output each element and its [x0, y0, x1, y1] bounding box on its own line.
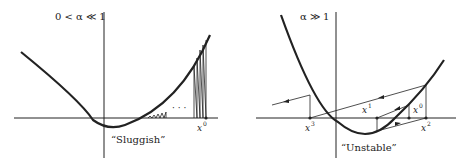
x3-label: x — [305, 123, 310, 133]
x0-sup: 0 — [203, 120, 207, 127]
x0-label: x — [413, 105, 418, 115]
step-line-1 — [377, 118, 426, 131]
x0-sup: 0 — [419, 102, 423, 109]
step-line-3 — [272, 95, 310, 105]
ellipsis: · · · — [172, 103, 186, 113]
arrow-icon — [394, 106, 400, 110]
right-panel: α ≫ 1 “Unstable” x 0 x 1 x 2 x 3 — [256, 11, 456, 158]
x1-sup: 1 — [368, 102, 372, 109]
left-zigzag-large — [194, 40, 206, 118]
right-parabola — [281, 15, 444, 134]
x0-point — [407, 116, 410, 119]
left-parabola — [21, 35, 210, 127]
right-caption: “Unstable” — [341, 142, 397, 153]
step-line-0 — [377, 105, 409, 118]
x3-sup: 3 — [311, 120, 315, 127]
x2-sup: 2 — [427, 120, 431, 127]
left-caption: “Sluggish” — [111, 134, 165, 145]
right-title: α ≫ 1 — [300, 11, 329, 22]
x1-label: x — [362, 105, 367, 115]
x2-label: x — [421, 123, 426, 133]
x1-point — [375, 116, 378, 119]
left-title: 0 < α ≪ 1 — [55, 11, 106, 22]
arrow-icon — [283, 99, 289, 103]
iteration-diagram: · · · 0 < α ≪ 1 “Sluggish” x 0 α ≫ 1 “Un… — [0, 0, 470, 166]
x0-label: x — [197, 123, 202, 133]
left-panel: · · · 0 < α ≪ 1 “Sluggish” x 0 — [14, 11, 218, 158]
